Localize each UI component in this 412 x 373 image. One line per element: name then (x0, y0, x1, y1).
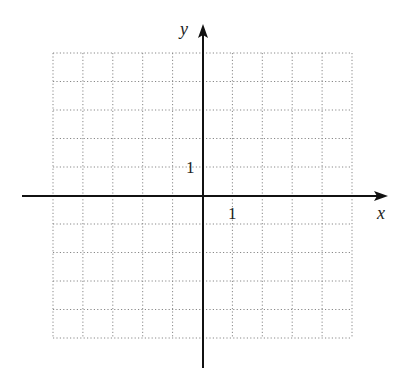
y-axis-label: y (178, 19, 188, 39)
coordinate-plane: x y 1 1 (0, 0, 412, 373)
y-tick-label: 1 (186, 158, 195, 177)
x-axis-label: x (376, 203, 385, 223)
x-tick-label: 1 (228, 204, 237, 223)
